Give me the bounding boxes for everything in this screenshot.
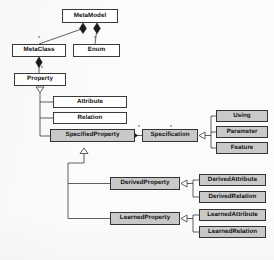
class-box-specification[interactable]: Specification <box>142 129 198 142</box>
class-label-specification: Specification <box>150 132 189 138</box>
class-label-using: Using <box>233 113 250 119</box>
class-box-learnedproperty[interactable]: LearnedProperty <box>110 212 180 225</box>
composition-diamond-enum <box>94 23 101 34</box>
class-label-specifiedproperty: SpecifiedProperty <box>66 132 120 138</box>
class-box-feature[interactable]: Feature <box>216 142 268 154</box>
class-box-learnedattribute[interactable]: LearnedAttribute <box>199 209 266 221</box>
edge-metamodel-metaclass <box>39 29 83 45</box>
multiplicity-specifiedproperty: * <box>138 124 140 130</box>
multiplicity-enum: * <box>94 35 96 41</box>
class-label-learnedrelation: LearnedRelation <box>208 229 257 235</box>
class-label-feature: Feature <box>231 145 254 151</box>
class-label-metamodel: MetaModel <box>74 13 106 19</box>
class-label-enum: Enum <box>88 47 105 53</box>
class-label-parameter: Parameter <box>227 129 258 135</box>
class-label-metaclass: MetaClass <box>23 47 54 53</box>
class-box-relation[interactable]: Relation <box>53 112 127 124</box>
class-box-specifiedproperty[interactable]: SpecifiedProperty <box>50 129 135 142</box>
class-box-attribute[interactable]: Attribute <box>53 96 127 108</box>
class-box-property[interactable]: Property <box>14 73 66 86</box>
class-box-using[interactable]: Using <box>216 110 268 122</box>
class-box-metaclass[interactable]: MetaClass <box>12 44 66 57</box>
generalization-triangle-learnedproperty <box>181 215 187 222</box>
class-label-learnedproperty: LearnedProperty <box>120 215 170 221</box>
class-label-relation: Relation <box>78 115 103 121</box>
class-box-derivedproperty[interactable]: DerivedProperty <box>110 177 180 190</box>
multiplicity-metaclass: * <box>38 35 40 41</box>
generalization-triangle-specification <box>199 132 205 139</box>
diagram-canvas: MetaModel MetaClass Enum Property Attrib… <box>0 0 274 260</box>
multiplicity-property: * <box>41 65 43 71</box>
class-label-derivedrelation: DerivedRelation <box>209 194 257 200</box>
multiplicity-specification: * <box>170 124 172 130</box>
class-label-derivedattribute: DerivedAttribute <box>208 177 257 183</box>
class-label-attribute: Attribute <box>77 99 103 105</box>
class-label-learnedattribute: LearnedAttribute <box>207 212 258 218</box>
generalization-triangle-specifiedproperty <box>80 148 88 154</box>
class-box-metamodel[interactable]: MetaModel <box>62 9 118 23</box>
class-label-property: Property <box>27 76 53 82</box>
class-box-parameter[interactable]: Parameter <box>216 126 268 138</box>
class-box-derivedattribute[interactable]: DerivedAttribute <box>199 174 266 186</box>
class-label-derivedproperty: DerivedProperty <box>121 180 170 186</box>
generalization-triangle-property <box>36 87 44 93</box>
class-box-enum[interactable]: Enum <box>73 44 120 57</box>
class-box-derivedrelation[interactable]: DerivedRelation <box>199 191 266 203</box>
composition-diamond-metaclass <box>80 23 87 34</box>
class-box-learnedrelation[interactable]: LearnedRelation <box>199 226 266 238</box>
generalization-triangle-derivedproperty <box>181 180 187 187</box>
